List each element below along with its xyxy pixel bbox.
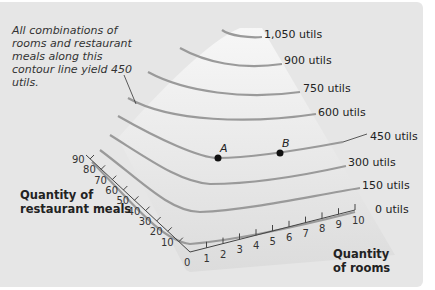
contour-450-leader [343,134,367,142]
meals-tick-label: 20 [150,226,163,237]
rooms-tick-label: 2 [220,249,226,260]
rooms-axis-title-line2: of rooms [333,261,390,275]
rooms-tick-label: 5 [270,236,276,247]
rooms-tick-label: 9 [336,219,342,230]
meals-tick-label: 90 [72,154,85,165]
meals-tick-label: 30 [139,216,152,227]
rooms-tick-label: 4 [253,240,259,251]
point-a-label: A [219,142,228,155]
contour-label-150: 150 utils [362,179,410,192]
rooms-tick-label: 6 [286,232,292,243]
meals-tick-label: 0 [184,257,190,268]
rooms-axis-title-line1: Quantity [333,247,390,261]
contour-label-900: 900 utils [284,54,332,67]
rooms-tick-label: 1 [204,253,210,264]
meals-axis-title: Quantity of restaurant meals [20,188,131,216]
meals-tick-label: 70 [94,175,107,186]
rooms-axis-title: Quantity of rooms [333,247,390,275]
meals-tick-mark [146,207,150,211]
meals-tick-mark [134,196,138,200]
point-b-marker [277,150,284,157]
meals-tick-label: 10 [161,237,174,248]
contour-label-600: 600 utils [318,106,366,119]
contour-label-0: 0 utils [375,203,409,216]
meals-tick-mark [101,165,105,169]
meals-tick-mark [90,155,94,159]
point-a-marker [215,155,222,162]
rooms-tick-label: 3 [237,244,243,255]
meals-tick-label: 80 [83,164,96,175]
point-b-label: B [282,137,290,150]
contour-label-300: 300 utils [348,156,396,169]
contour-label-750: 750 utils [303,82,351,95]
contour-annotation: All combinations of rooms and restaurant… [12,24,132,89]
meals-axis-title-line1: Quantity of [20,188,131,202]
rooms-tick-label: 7 [303,228,309,239]
meals-tick-mark [112,176,116,180]
contour-label-1050: 1,050 utils [264,28,322,41]
meals-axis-title-line2: restaurant meals [20,202,131,216]
rooms-tick-label: 10 [352,215,365,226]
rooms-tick-label: 8 [319,223,325,234]
contour-label-450: 450 utils [370,130,418,143]
